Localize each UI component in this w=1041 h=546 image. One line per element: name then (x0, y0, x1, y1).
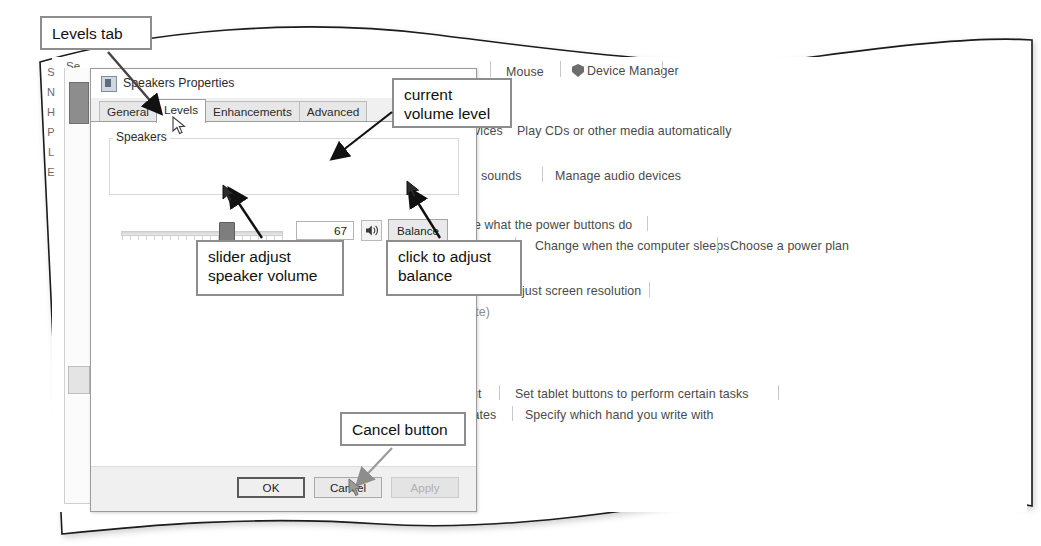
mouse-cursor-balance (406, 180, 422, 200)
callout-line-1: slider adjust (208, 248, 332, 267)
sidebar-letter: N (40, 82, 62, 102)
callout-current-volume-level: current volume level (392, 78, 512, 128)
tab-general[interactable]: General (99, 101, 157, 123)
hidden-window-thumbnail (69, 82, 89, 124)
sidebar-letter: P (40, 122, 62, 142)
speaker-glyph (362, 221, 381, 240)
cp-link-screen-resolution[interactable]: djust screen resolution (515, 284, 641, 298)
divider (542, 167, 543, 182)
divider (662, 61, 663, 77)
divider (499, 385, 500, 400)
volume-value-field[interactable]: 67 (296, 221, 354, 240)
cp-link-computer-sleeps[interactable]: Change when the computer sleeps (535, 239, 730, 253)
hidden-window-sidebar: S N H P L E (40, 62, 62, 212)
volume-value: 67 (334, 224, 347, 238)
cp-link-which-hand[interactable]: Specify which hand you write with (525, 408, 714, 422)
callout-levels-tab: Levels tab (40, 16, 152, 50)
tab-enhancements[interactable]: Enhancements (205, 101, 300, 123)
mouse-cursor-cancel (348, 478, 364, 498)
sidebar-letter: E (40, 162, 62, 182)
callout-line-2: volume level (404, 105, 500, 124)
ok-button[interactable]: OK (237, 477, 305, 498)
divider (717, 237, 718, 252)
tab-advanced[interactable]: Advanced (299, 101, 367, 123)
divider (649, 282, 650, 297)
hidden-window-thumbnail-2 (68, 366, 90, 394)
sidebar-letter: L (40, 142, 62, 162)
slider-track[interactable] (121, 231, 283, 236)
speaker-volume-icon[interactable] (361, 220, 382, 241)
callout-cancel-button: Cancel button (340, 412, 466, 446)
divider (490, 61, 491, 77)
speakers-group-label: Speakers (113, 130, 170, 144)
divider (647, 216, 648, 231)
callout-line-2: balance (398, 267, 510, 286)
callout-slider-adjust: slider adjust speaker volume (196, 240, 344, 296)
sidebar-letter: H (40, 102, 62, 122)
cp-link-device-manager-label: Device Manager (587, 64, 679, 78)
cp-link-power-buttons[interactable]: nge what the power buttons do (460, 218, 632, 232)
cp-link-power-plan[interactable]: Choose a power plan (730, 239, 849, 253)
speaker-properties-icon (101, 76, 117, 92)
sidebar-letter: S (40, 62, 62, 82)
dialog-footer: OK Cancel Apply (91, 466, 476, 511)
dialog-title: Speakers Properties (123, 76, 234, 90)
apply-button: Apply (391, 477, 459, 498)
divider (512, 406, 513, 421)
cp-link-mouse[interactable]: Mouse (506, 65, 544, 79)
callout-line-1: current (404, 86, 500, 105)
cp-link-tablet-buttons[interactable]: Set tablet buttons to perform certain ta… (515, 387, 749, 401)
cp-link-play-cds[interactable]: Play CDs or other media automatically (517, 124, 731, 138)
shield-icon (572, 64, 584, 77)
callout-click-to-adjust-balance: click to adjust balance (386, 240, 522, 296)
mouse-cursor-levels (172, 116, 188, 136)
divider (560, 61, 561, 77)
callout-line-2: speaker volume (208, 267, 332, 286)
balance-button[interactable]: Balance (388, 219, 448, 241)
cp-link-manage-audio[interactable]: Manage audio devices (555, 169, 681, 183)
divider (778, 385, 779, 400)
mouse-cursor-slider (222, 184, 238, 204)
callout-line-1: click to adjust (398, 248, 510, 267)
